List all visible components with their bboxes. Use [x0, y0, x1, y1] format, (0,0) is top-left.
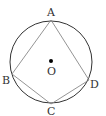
label-o: O [47, 65, 56, 78]
label-b: B [2, 74, 10, 87]
label-d: D [90, 78, 99, 91]
label-a: A [46, 6, 56, 19]
label-c: C [47, 105, 55, 116]
center-point-o [49, 59, 53, 63]
geometry-diagram: A B C D O [0, 0, 106, 116]
